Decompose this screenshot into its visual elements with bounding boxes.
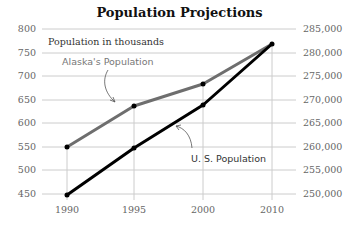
svg-text:650: 650 [18,94,36,105]
svg-text:550: 550 [18,141,36,152]
svg-text:285,000: 285,000 [303,23,342,34]
svg-text:250,000: 250,000 [303,188,342,199]
svg-text:275,000: 275,000 [303,70,342,81]
right-axis-ticks: 285,000 280,000 275,000 270,000 265,000 … [303,23,342,199]
svg-text:265,000: 265,000 [303,117,342,128]
svg-text:270,000: 270,000 [303,94,342,105]
svg-text:800: 800 [18,23,36,34]
units-note: Population in thousands [48,36,164,47]
svg-text:600: 600 [18,117,36,128]
svg-text:1990: 1990 [55,204,79,215]
svg-text:260,000: 260,000 [303,141,342,152]
svg-text:700: 700 [18,70,36,81]
us-series-label: U. S. Population [191,153,266,164]
x-axis-ticks: 1990 1995 2000 2010 [55,204,284,215]
svg-text:1995: 1995 [122,204,146,215]
svg-text:280,000: 280,000 [303,47,342,58]
svg-text:255,000: 255,000 [303,164,342,175]
chart-canvas: 800 750 700 650 600 550 500 450 285,000 … [0,0,359,232]
svg-text:750: 750 [18,47,36,58]
alaska-series-label: Alaska's Population [62,56,154,67]
svg-text:2010: 2010 [260,204,284,215]
vertical-gridlines [67,44,272,200]
svg-text:450: 450 [18,188,36,199]
svg-text:500: 500 [18,164,36,175]
left-axis-ticks: 800 750 700 650 600 550 500 450 [18,23,36,199]
svg-text:2000: 2000 [191,204,215,215]
